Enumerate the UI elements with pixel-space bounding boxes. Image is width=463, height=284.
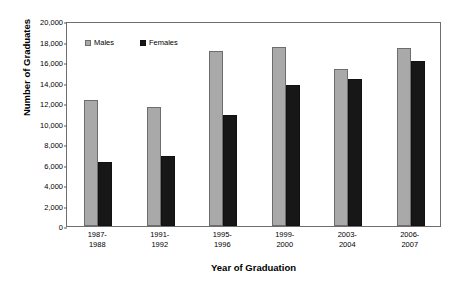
bar-males bbox=[272, 47, 286, 226]
bar-females bbox=[223, 115, 237, 226]
bar-group bbox=[209, 23, 237, 226]
y-tick-mark bbox=[64, 228, 67, 229]
legend: Males Females bbox=[85, 39, 178, 47]
bar-males bbox=[397, 48, 411, 226]
bar-group bbox=[84, 23, 112, 226]
legend-label-males: Males bbox=[94, 39, 114, 47]
legend-label-females: Females bbox=[149, 39, 178, 47]
bar-males bbox=[84, 100, 98, 226]
y-axis-title: Number of Graduates bbox=[21, 0, 32, 148]
y-tick-label: 10,000 bbox=[40, 122, 67, 130]
y-tick-label: 18,000 bbox=[40, 40, 67, 48]
y-tick-label: 20,000 bbox=[40, 19, 67, 27]
bars-layer bbox=[67, 23, 440, 226]
bar-females bbox=[98, 162, 112, 226]
x-tick-label: 2003-2004 bbox=[320, 230, 374, 249]
bar-females bbox=[161, 156, 175, 226]
x-tick-label: 1999-2000 bbox=[258, 230, 312, 249]
bar-group bbox=[334, 23, 362, 226]
y-tick-label: 14,000 bbox=[40, 81, 67, 89]
plot-area: 02,0004,0006,0008,00010,00012,00014,0001… bbox=[66, 22, 441, 227]
bar-group bbox=[147, 23, 175, 226]
legend-swatch-females-icon bbox=[140, 40, 146, 46]
y-tick-label: 12,000 bbox=[40, 101, 67, 109]
bar-males bbox=[209, 51, 223, 226]
legend-item-females: Females bbox=[140, 39, 178, 47]
bar-females bbox=[348, 79, 362, 226]
x-tick-label: 1991-1992 bbox=[133, 230, 187, 249]
plot-inner: 02,0004,0006,0008,00010,00012,00014,0001… bbox=[67, 23, 440, 226]
x-tick-label: 1995-1996 bbox=[195, 230, 249, 249]
y-tick-label: 16,000 bbox=[40, 60, 67, 68]
bar-females bbox=[411, 61, 425, 226]
bar-group bbox=[272, 23, 300, 226]
bar-males bbox=[334, 69, 348, 226]
legend-swatch-males-icon bbox=[85, 40, 91, 46]
bar-chart: Number of Graduates 02,0004,0006,0008,00… bbox=[0, 0, 463, 284]
x-tick-label: 2006-2007 bbox=[383, 230, 437, 249]
bar-females bbox=[286, 85, 300, 226]
x-axis-title: Year of Graduation bbox=[66, 262, 441, 273]
bar-males bbox=[147, 107, 161, 226]
legend-item-males: Males bbox=[85, 39, 114, 47]
bar-group bbox=[397, 23, 425, 226]
x-tick-label: 1987-1988 bbox=[70, 230, 124, 249]
x-axis-tick-labels: 1987-19881991-19921995-19961999-20002003… bbox=[66, 230, 441, 256]
